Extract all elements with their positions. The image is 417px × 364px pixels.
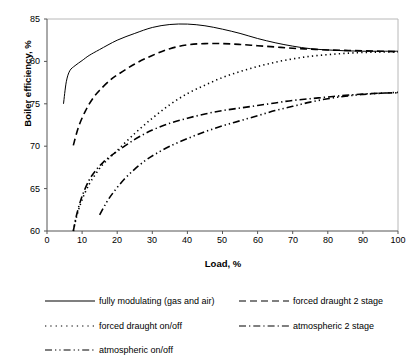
series-line-forced-draught-2-stage [73,43,398,145]
boiler-efficiency-figure: Boiler efficiency, % 85 80 75 70 65 60 0… [0,0,417,364]
legend-label: forced draught 2 stage [293,296,383,306]
legend-label: atmospheric on/off [99,345,173,355]
legend-line-dashdotdot-icon [44,345,96,355]
series-line-forced-draught-on-off [73,52,398,231]
series-line-atmospheric-2-stage [73,93,398,231]
chart-plot-area: Boiler efficiency, % 85 80 75 70 65 60 0… [0,0,417,290]
legend-item-forced-draught-on-off: forced draught on/off [44,321,182,331]
legend-line-solid-icon [44,296,96,306]
legend-label: fully modulating (gas and air) [99,296,215,306]
legend-item-fully-modulating: fully modulating (gas and air) [44,296,215,306]
legend-item-atmospheric-2-stage: atmospheric 2 stage [238,321,374,331]
legend-label: forced draught on/off [99,321,182,331]
legend-line-dashed-icon [238,296,290,306]
legend-item-forced-draught-2-stage: forced draught 2 stage [238,296,383,306]
series-line-fully-modulating-gas-and-air- [64,24,399,104]
legend-line-dotted-icon [44,321,96,331]
legend-item-atmospheric-on-off: atmospheric on/off [44,345,173,355]
legend-line-dashdot-icon [238,321,290,331]
plot-canvas [0,0,417,290]
series-line-atmospheric-on-off [100,92,398,215]
legend-label: atmospheric 2 stage [293,321,374,331]
data-series-group [64,24,399,231]
chart-legend: fully modulating (gas and air) forced dr… [0,288,417,364]
